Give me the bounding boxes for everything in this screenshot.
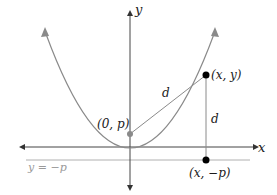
- parabola-diagram: y x (0, p) (x, y) (x, −p) d d y = −p: [0, 0, 277, 195]
- directrix-label: y = −p: [27, 161, 67, 174]
- y-axis-label: y: [134, 2, 143, 17]
- focus-point: [127, 131, 133, 137]
- x-axis-label: x: [258, 140, 266, 155]
- directrix-point-label: (x, −p): [189, 166, 231, 180]
- directrix-point: [203, 157, 210, 164]
- curve-arrow-left-icon: [41, 27, 49, 37]
- focus-label: (0, p): [97, 117, 130, 131]
- curve-point-label: (x, y): [211, 68, 242, 82]
- focus-distance-label: d: [162, 86, 170, 100]
- curve-point: [203, 72, 210, 79]
- curve-arrow-right-icon: [211, 27, 219, 37]
- directrix-distance-label: d: [211, 112, 219, 126]
